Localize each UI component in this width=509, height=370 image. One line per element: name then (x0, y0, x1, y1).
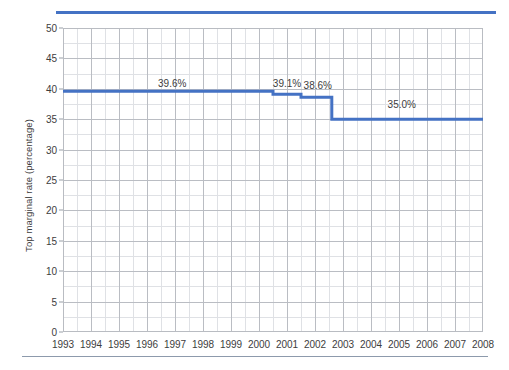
y-tick-label: 35 (46, 114, 57, 125)
y-tick-label: 10 (46, 266, 57, 277)
chart-figure: Top marginal rate (percentage) 051015202… (0, 0, 509, 370)
x-tick-label: 1997 (164, 339, 186, 350)
y-tick-mark (59, 210, 63, 211)
x-tick-label: 1994 (80, 339, 102, 350)
y-axis-title: Top marginal rate (percentage) (23, 76, 34, 296)
x-tick-label: 2008 (472, 339, 494, 350)
y-tick-mark (59, 240, 63, 241)
bottom-divider-rule (22, 356, 488, 357)
data-point-label: 38.6% (304, 80, 332, 91)
x-tick-label: 2004 (360, 339, 382, 350)
y-tick-mark (59, 332, 63, 333)
x-tick-label: 2002 (304, 339, 326, 350)
y-tick-label: 5 (51, 296, 57, 307)
y-tick-mark (59, 88, 63, 89)
x-tick-label: 1998 (192, 339, 214, 350)
y-tick-mark (59, 180, 63, 181)
y-tick-mark (59, 119, 63, 120)
data-series-svg (63, 28, 483, 332)
plot-area: 05101520253035404550 1993199419951996199… (63, 28, 483, 332)
top-divider-rule (56, 11, 496, 14)
y-tick-mark (59, 301, 63, 302)
y-tick-label: 50 (46, 23, 57, 34)
data-point-label: 35.0% (388, 99, 416, 110)
y-tick-label: 45 (46, 53, 57, 64)
x-tick-label: 2005 (388, 339, 410, 350)
y-tick-mark (59, 149, 63, 150)
x-tick-label: 2000 (248, 339, 270, 350)
y-tick-label: 0 (51, 327, 57, 338)
y-tick-label: 40 (46, 83, 57, 94)
x-tick-label: 2003 (332, 339, 354, 350)
y-tick-mark (59, 28, 63, 29)
y-tick-label: 15 (46, 235, 57, 246)
y-tick-label: 30 (46, 144, 57, 155)
x-tick-label: 2007 (444, 339, 466, 350)
y-tick-label: 25 (46, 175, 57, 186)
y-tick-mark (59, 58, 63, 59)
x-tick-label: 1993 (52, 339, 74, 350)
x-tick-label: 1999 (220, 339, 242, 350)
step-line-series (63, 91, 483, 119)
x-tick-label: 1996 (136, 339, 158, 350)
y-tick-mark (59, 271, 63, 272)
x-tick-label: 2001 (276, 339, 298, 350)
data-point-label: 39.6% (158, 78, 186, 89)
x-tick-label: 2006 (416, 339, 438, 350)
x-tick-label: 1995 (108, 339, 130, 350)
y-tick-label: 20 (46, 205, 57, 216)
data-point-label: 39.1% (273, 78, 301, 89)
